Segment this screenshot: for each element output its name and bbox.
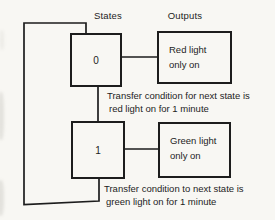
transfer-1-line1: Transfer condition to next state is xyxy=(104,183,244,196)
outputs-column-label: Outputs xyxy=(161,10,209,21)
output-box-green-light: Green light only on xyxy=(158,122,231,178)
transfer-0-line1: Transfer condition for next state is xyxy=(107,90,250,103)
transfer-condition-state0: Transfer condition for next state is red… xyxy=(107,90,250,115)
state-box-0: 0 xyxy=(70,33,122,87)
state-0-id: 0 xyxy=(93,55,99,66)
output-red-line1: Red light xyxy=(169,42,230,57)
transfer-condition-state1: Transfer condition to next state is gree… xyxy=(104,183,244,208)
output-green-line1: Green light xyxy=(170,133,229,148)
transfer-1-line2: green light on for 1 minute xyxy=(104,196,244,209)
output-green-line2: only on xyxy=(170,148,229,163)
output-box-red-light: Red light only on xyxy=(157,31,232,84)
transfer-0-line2: red light on for 1 minute xyxy=(107,103,250,116)
states-column-label: States xyxy=(84,10,132,21)
output-red-line2: only on xyxy=(169,57,230,72)
state-1-id: 1 xyxy=(95,145,101,156)
state-diagram: States Outputs 0 Red light only on Trans… xyxy=(0,0,275,220)
state-box-1: 1 xyxy=(71,121,125,179)
